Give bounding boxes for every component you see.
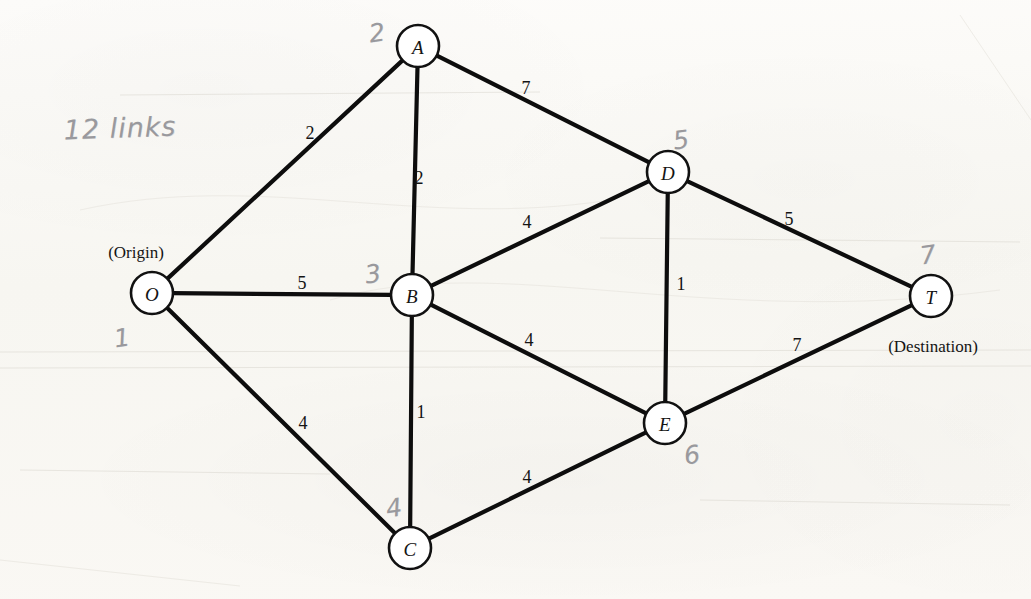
pencil-number-o: 1 (112, 325, 131, 352)
edges-group (166, 55, 913, 539)
edge-weight-d-t: 5 (785, 210, 794, 228)
edge-b-c (410, 315, 412, 528)
edge-a-d (436, 55, 650, 163)
pencil-number-t: 7 (918, 242, 937, 269)
edge-o-a (167, 60, 404, 280)
pencil-number-d: 5 (671, 127, 690, 154)
pencil-number-e: 6 (682, 442, 701, 469)
node-label-o: O (145, 285, 159, 304)
edge-o-c (166, 307, 396, 534)
edge-weight-e-t: 7 (793, 336, 802, 354)
edge-b-e (430, 304, 647, 414)
pencil-note-links-count: 12 links (63, 113, 177, 144)
edge-d-t (686, 181, 913, 288)
node-role-o: (Origin) (108, 244, 164, 261)
node-label-d: D (661, 164, 675, 183)
node-label-c: C (404, 540, 417, 559)
edge-b-d (430, 181, 650, 287)
edge-weight-c-e: 4 (523, 468, 532, 486)
node-role-t: (Destination) (888, 338, 978, 355)
node-label-t: T (926, 288, 937, 307)
node-label-b: B (406, 287, 418, 306)
edge-c-e (428, 432, 647, 539)
node-label-e: E (659, 415, 671, 434)
node-label-a: A (412, 38, 424, 57)
edge-weight-o-c: 4 (299, 414, 308, 432)
edge-d-e (665, 192, 668, 403)
edge-weight-a-d: 7 (522, 79, 531, 97)
edge-weight-b-e: 4 (525, 331, 534, 349)
edge-o-b (172, 293, 392, 295)
edge-weight-b-c: 1 (417, 403, 426, 421)
pencil-number-a: 2 (367, 20, 386, 47)
edge-weight-d-e: 1 (677, 275, 686, 293)
network-diagram-page: 254274411547O(Origin)1A2B3C4D5E6T(Destin… (0, 0, 1031, 599)
edge-weight-a-b: 2 (415, 169, 424, 187)
edge-e-t (683, 305, 913, 415)
edge-weight-o-a: 2 (306, 124, 315, 142)
pencil-number-c: 4 (384, 495, 403, 522)
edge-weight-o-b: 5 (298, 274, 307, 292)
edge-weight-b-d: 4 (523, 213, 532, 231)
pencil-number-b: 3 (363, 261, 382, 288)
